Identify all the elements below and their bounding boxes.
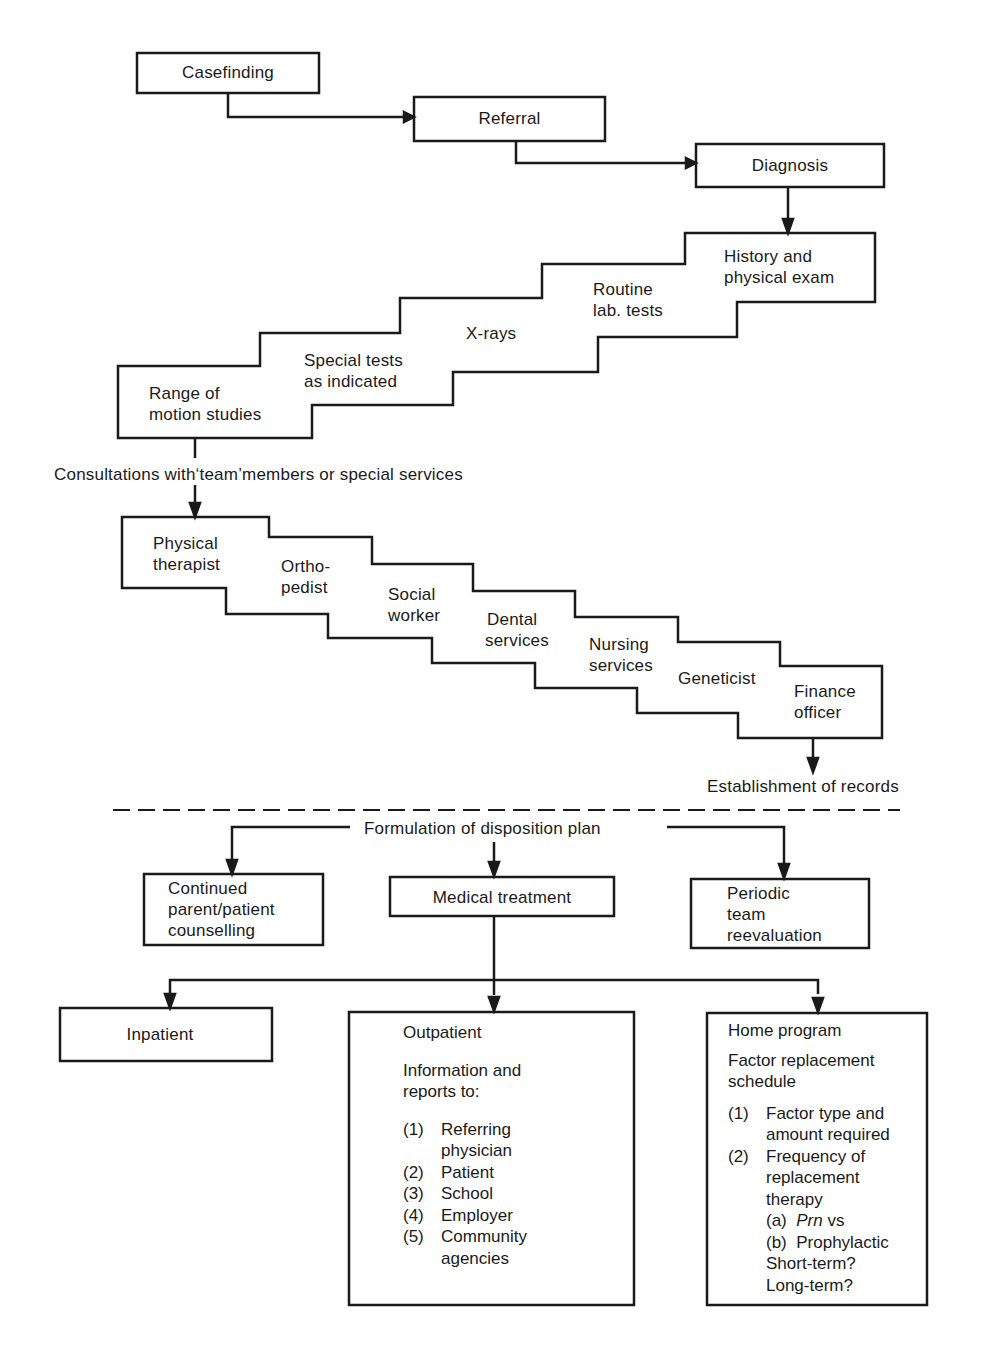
home-program-long-term: Long-term? [728,1275,890,1297]
step-history-line2: physical exam [724,267,834,288]
consult-nursing-line2: services [589,655,653,676]
arrowhead-icon [783,219,793,233]
step-xrays: X-rays [466,323,516,344]
consult-finance-line1: Finance [794,681,856,702]
reevaluation-line2: team [727,904,766,925]
step-history-line1: History and [724,246,812,267]
outpatient-item-cont: agencies [403,1248,527,1270]
arrowhead-icon [686,158,696,168]
consult-orthopedist-line2: pedist [281,577,328,598]
home-program-sub-a: (a) Prn vs [728,1210,890,1232]
consult-dental-line2: services [485,630,549,651]
outpatient-content: Outpatient Information and reports to: (… [403,1022,527,1269]
inpatient-label: Inpatient [60,1024,260,1045]
outpatient-item: (2)Patient [403,1162,527,1184]
step-routine-lab-line1: Routine [593,279,653,300]
counselling-line3: counselling [168,920,255,941]
outpatient-item: (5)Community [403,1226,527,1248]
arrowhead-icon [489,997,499,1011]
arrowhead-icon [227,860,237,874]
arrow-casefinding-referral [228,93,404,117]
step-range-of-motion-line1: Range of [149,383,220,404]
step-special-tests-line1: Special tests [304,350,403,371]
step-routine-lab-line2: lab. tests [593,300,663,321]
consultations-label: Consultations with‘team’members or speci… [54,464,463,485]
consult-social-worker-line1: Social [388,584,436,605]
arrow-to-reevaluation [667,827,784,866]
reevaluation-line1: Periodic [727,883,790,904]
disposition-label: Formulation of disposition plan [364,818,601,839]
home-program-short-term: Short-term? [728,1253,890,1275]
counselling-line2: parent/patient [168,899,275,920]
arrow-to-counselling [232,827,350,862]
home-program-intro-line1: Factor replacement [728,1050,890,1072]
consult-physical-therapist-line2: therapist [153,554,220,575]
arrowhead-icon [404,112,414,122]
consult-physical-therapist-line1: Physical [153,533,218,554]
home-program-sub-b: (b) Prophylactic [728,1232,890,1254]
consult-orthopedist-line1: Ortho- [281,556,330,577]
home-program-intro-line2: schedule [728,1071,890,1093]
arrowhead-icon [779,864,789,878]
outpatient-item: (3)School [403,1183,527,1205]
outpatient-item: (1)Referring [403,1119,527,1141]
casefinding-label: Casefinding [137,62,319,83]
outpatient-title: Outpatient [403,1022,527,1044]
consult-finance-line2: officer [794,702,841,723]
outpatient-item: (4)Employer [403,1205,527,1227]
arrowhead-icon [489,862,499,876]
reevaluation-line3: reevaluation [727,925,822,946]
arrowhead-icon [808,758,818,772]
consult-geneticist: Geneticist [678,668,756,689]
records-label: Establishment of records [707,776,899,797]
outpatient-intro-line1: Information and [403,1060,527,1082]
outpatient-item-cont: physician [403,1140,527,1162]
home-program-item-cont: replacement [728,1167,890,1189]
arrowhead-icon [165,994,175,1008]
medical-treatment-label: Medical treatment [390,887,614,908]
home-program-item: (1)Factor type and [728,1103,890,1125]
referral-label: Referral [414,108,605,129]
step-special-tests-line2: as indicated [304,371,397,392]
home-program-item-cont: amount required [728,1124,890,1146]
arrow-referral-diagnosis [516,141,686,163]
counselling-line1: Continued [168,878,247,899]
home-program-title: Home program [728,1020,890,1042]
arrowhead-icon [813,998,823,1012]
arrowhead-icon [190,503,200,517]
consult-social-worker-line2: worker [388,605,440,626]
home-program-item-cont: therapy [728,1189,890,1211]
home-program-content: Home program Factor replacement schedule… [728,1020,890,1296]
step-range-of-motion-line2: motion studies [149,404,261,425]
outpatient-intro-line2: reports to: [403,1081,527,1103]
consult-dental-line1: Dental [487,609,537,630]
home-program-item: (2)Frequency of [728,1146,890,1168]
consult-nursing-line1: Nursing [589,634,649,655]
diagnosis-label: Diagnosis [696,155,884,176]
